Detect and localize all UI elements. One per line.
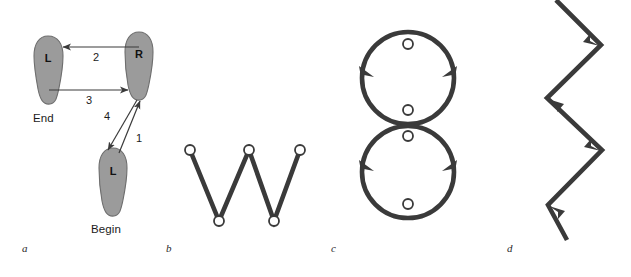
panel-label-d: d — [507, 242, 513, 254]
panel-b-graphic — [170, 130, 320, 240]
node-5 — [295, 145, 305, 155]
footprint-right — [125, 32, 153, 100]
panel-d — [520, 0, 631, 240]
panel-label-b: b — [166, 242, 172, 254]
panel-d-graphic — [520, 0, 631, 240]
footprint-left-begin-letter: L — [110, 165, 117, 177]
arrow-2-number: 2 — [93, 51, 99, 63]
panel-c-graphic — [350, 25, 470, 240]
zigzag-path-d — [547, 0, 602, 240]
panel-a-graphic: L R L — [0, 0, 170, 240]
zigzag-path-b — [190, 150, 300, 221]
panel-c — [350, 25, 470, 240]
node-lower-bottom — [403, 199, 413, 209]
begin-caption: Begin — [91, 223, 121, 235]
node-4 — [269, 216, 279, 226]
node-upper-top — [403, 39, 413, 49]
arrow-1-line — [119, 101, 140, 153]
panel-label-c: c — [331, 242, 336, 254]
node-3 — [244, 145, 254, 155]
footprint-left-end-letter: L — [45, 52, 52, 64]
footprint-left-end — [34, 36, 63, 104]
panel-label-a: a — [22, 242, 28, 254]
end-caption: End — [33, 112, 54, 124]
arrow-4-line — [108, 100, 137, 150]
figure-canvas: L R L 2 3 4 1 End Begin — [0, 0, 631, 277]
arrow-1-number: 1 — [136, 132, 142, 144]
node-1 — [185, 145, 195, 155]
node-upper-bottom — [403, 105, 413, 115]
footprint-right-letter: R — [135, 48, 143, 60]
panel-a: L R L 2 3 4 1 End Begin — [0, 0, 170, 240]
arrow-4-number: 4 — [104, 110, 110, 122]
node-2 — [214, 216, 224, 226]
footprint-left-begin — [99, 148, 127, 216]
panel-b — [170, 130, 320, 240]
arrow-3-number: 3 — [86, 94, 92, 106]
node-lower-top — [403, 131, 413, 141]
